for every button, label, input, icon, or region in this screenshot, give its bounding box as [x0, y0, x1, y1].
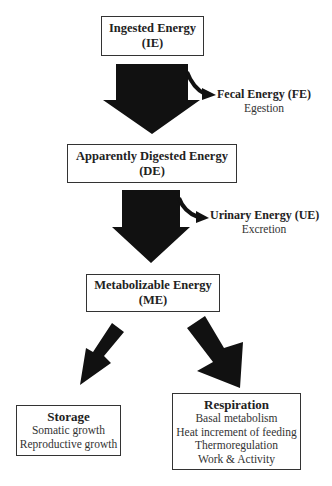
arrow-urinary-loss [179, 198, 198, 217]
node-title: Apparently Digested Energy [68, 149, 236, 164]
node-abbr: (ME) [87, 293, 219, 308]
node-ingested-energy: Ingested Energy (IE) [101, 16, 204, 56]
arrow-me-to-storage [80, 323, 124, 385]
loss-title: Urinary Energy (UE) [210, 208, 318, 223]
loss-process: Excretion [210, 223, 318, 237]
node-abbr: (IE) [102, 36, 203, 51]
loss-urinary-energy: Urinary Energy (UE) Excretion [210, 208, 318, 237]
node-metabolizable-energy: Metabolizable Energy (ME) [86, 274, 220, 312]
respiration-item: Heat increment of feeding [173, 426, 300, 440]
storage-item: Reproductive growth [17, 438, 120, 452]
node-abbr: (DE) [68, 164, 236, 179]
node-storage: Storage Somatic growth Reproductive grow… [16, 405, 121, 456]
respiration-item: Basal metabolism [173, 412, 300, 426]
loss-process: Egestion [216, 102, 312, 116]
node-respiration: Respiration Basal metabolism Heat increm… [172, 393, 301, 470]
respiration-item: Work & Activity [173, 453, 300, 467]
node-digested-energy: Apparently Digested Energy (DE) [67, 144, 237, 183]
node-title: Storage [17, 409, 120, 424]
node-title: Respiration [173, 397, 300, 412]
storage-item: Somatic growth [17, 424, 120, 438]
loss-title: Fecal Energy (FE) [216, 87, 312, 102]
arrow-ie-to-de [103, 64, 200, 134]
node-title: Ingested Energy [102, 21, 203, 36]
loss-fecal-energy: Fecal Energy (FE) Egestion [216, 87, 312, 116]
node-title: Metabolizable Energy [87, 278, 219, 293]
arrow-me-to-respiration [187, 316, 243, 388]
respiration-item: Thermoregulation [173, 439, 300, 453]
